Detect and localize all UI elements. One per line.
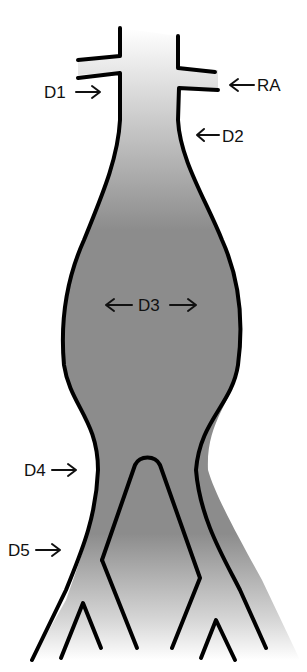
vessel-wall-right-upper xyxy=(178,36,215,72)
label-d4: D4 xyxy=(24,461,46,480)
label-d2: D2 xyxy=(222,127,244,146)
arrow-right-icon xyxy=(36,544,60,556)
aorta-diagram: D1 RA D2 D3 D4 D5 xyxy=(0,0,307,672)
vessel-wall-left xyxy=(78,28,120,60)
vessel-lumen xyxy=(32,28,300,660)
arrow-left-icon xyxy=(230,79,254,91)
label-ra: RA xyxy=(257,76,281,95)
arrow-left-icon xyxy=(197,129,219,141)
label-d3: D3 xyxy=(138,296,160,315)
arrow-right-icon xyxy=(52,464,76,476)
label-d5: D5 xyxy=(8,541,30,560)
arrow-right-icon xyxy=(76,86,100,98)
label-d1: D1 xyxy=(44,83,66,102)
